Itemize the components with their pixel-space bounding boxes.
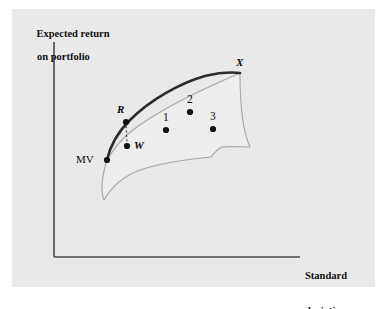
x-axis-title-line2: deviation: [305, 305, 362, 309]
x-axis-title: Standard deviation of portfolio's return: [305, 246, 362, 309]
point-label-x: X: [236, 56, 243, 68]
point-marker-r: [123, 119, 129, 125]
point-marker-2: [187, 109, 193, 115]
point-marker-1: [163, 127, 169, 133]
point-label-1: 1: [163, 111, 169, 123]
point-marker-3: [210, 126, 216, 132]
y-axis-title: Expected return on portfolio: [26, 16, 110, 87]
feasible-region-shape: [102, 73, 250, 200]
point-label-2: 2: [187, 93, 193, 105]
point-label-w: W: [134, 139, 144, 151]
y-axis-title-line2: on portfolio: [26, 51, 110, 63]
point-label-r: R: [117, 103, 124, 115]
point-marker-w: [124, 143, 130, 149]
point-marker-mv: [104, 157, 110, 163]
x-axis-title-line1: Standard: [305, 270, 362, 282]
figure-container: Expected return on portfolio Standard de…: [0, 0, 387, 309]
point-label-mv: MV: [76, 153, 94, 165]
point-label-3: 3: [210, 110, 216, 122]
y-axis-title-line1: Expected return: [37, 28, 110, 39]
